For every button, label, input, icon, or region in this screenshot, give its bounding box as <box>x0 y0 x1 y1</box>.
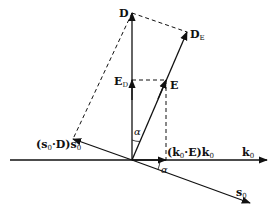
label-alpha-bottom: α <box>161 164 168 175</box>
alpha-arc-top <box>132 140 140 142</box>
label-s0: s0 <box>236 186 247 200</box>
label-s0-projection: (s0·D)s0 <box>36 138 81 152</box>
label-E_D: ED <box>114 75 128 89</box>
label-E: E <box>170 79 178 92</box>
label-k0: k0 <box>242 146 254 160</box>
dash-D-to-DE <box>132 13 187 32</box>
vector-diagram: D DE E ED (s0·D)s0 (k0·E)k0 k0 s0 α α <box>0 0 270 214</box>
label-D: D <box>119 7 129 20</box>
label-alpha-top: α <box>134 126 141 137</box>
alpha-arc-bottom <box>158 160 160 170</box>
s0-projection-arrow <box>73 139 132 160</box>
E-vector <box>158 80 166 99</box>
s0-axis <box>132 160 250 203</box>
label-k0-projection: (k0·E)k0 <box>167 146 214 160</box>
label-D_E: DE <box>190 28 205 42</box>
dash-D-to-s0proj <box>73 13 132 139</box>
